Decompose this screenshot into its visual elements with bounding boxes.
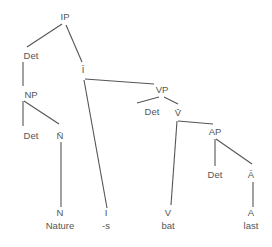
node-n: N bbox=[57, 207, 64, 218]
edge-ip-det1 bbox=[27, 24, 62, 47]
node-np: NP bbox=[24, 89, 37, 100]
edge-vbar-ap bbox=[178, 121, 213, 124]
tree-edges bbox=[23, 24, 253, 208]
edge-ip-ibar bbox=[66, 25, 82, 62]
edge-np-nbar bbox=[24, 101, 59, 124]
node-a: A bbox=[248, 207, 255, 218]
node-ip: IP bbox=[61, 11, 70, 22]
edge-vp-vbar bbox=[164, 97, 178, 104]
node-det4: Det bbox=[208, 169, 223, 180]
edge-vp-det3 bbox=[137, 97, 159, 103]
node-nbar: N̄ bbox=[57, 130, 64, 141]
node-v: V bbox=[165, 207, 172, 218]
leaf-last: last bbox=[244, 220, 259, 231]
node-det3: Det bbox=[145, 106, 160, 117]
node-ibar: Ī bbox=[82, 64, 85, 75]
edge-ibar-vp bbox=[85, 79, 154, 84]
edge-ap-abar bbox=[216, 139, 252, 164]
node-i: I bbox=[105, 207, 108, 218]
tree-leaves: Nature-sbatlast bbox=[46, 220, 259, 231]
node-det1: Det bbox=[24, 50, 39, 61]
node-abar: Ā bbox=[248, 169, 255, 180]
syntax-tree-diagram: IPDetĪNPVPDetN̄DetV̄APDetĀNIVA Nature-sb… bbox=[0, 0, 272, 247]
node-det2: Det bbox=[24, 130, 39, 141]
leaf-s: -s bbox=[102, 220, 110, 231]
edge-vbar-v bbox=[171, 121, 177, 205]
node-vbar: V̄ bbox=[175, 107, 182, 118]
leaf-nature: Nature bbox=[46, 220, 75, 231]
tree-nodes: IPDetĪNPVPDetN̄DetV̄APDetĀNIVA bbox=[24, 11, 255, 218]
edge-ibar-i bbox=[84, 80, 107, 208]
node-ap: AP bbox=[209, 126, 222, 137]
leaf-bat: bat bbox=[161, 220, 175, 231]
node-vp: VP bbox=[156, 84, 169, 95]
